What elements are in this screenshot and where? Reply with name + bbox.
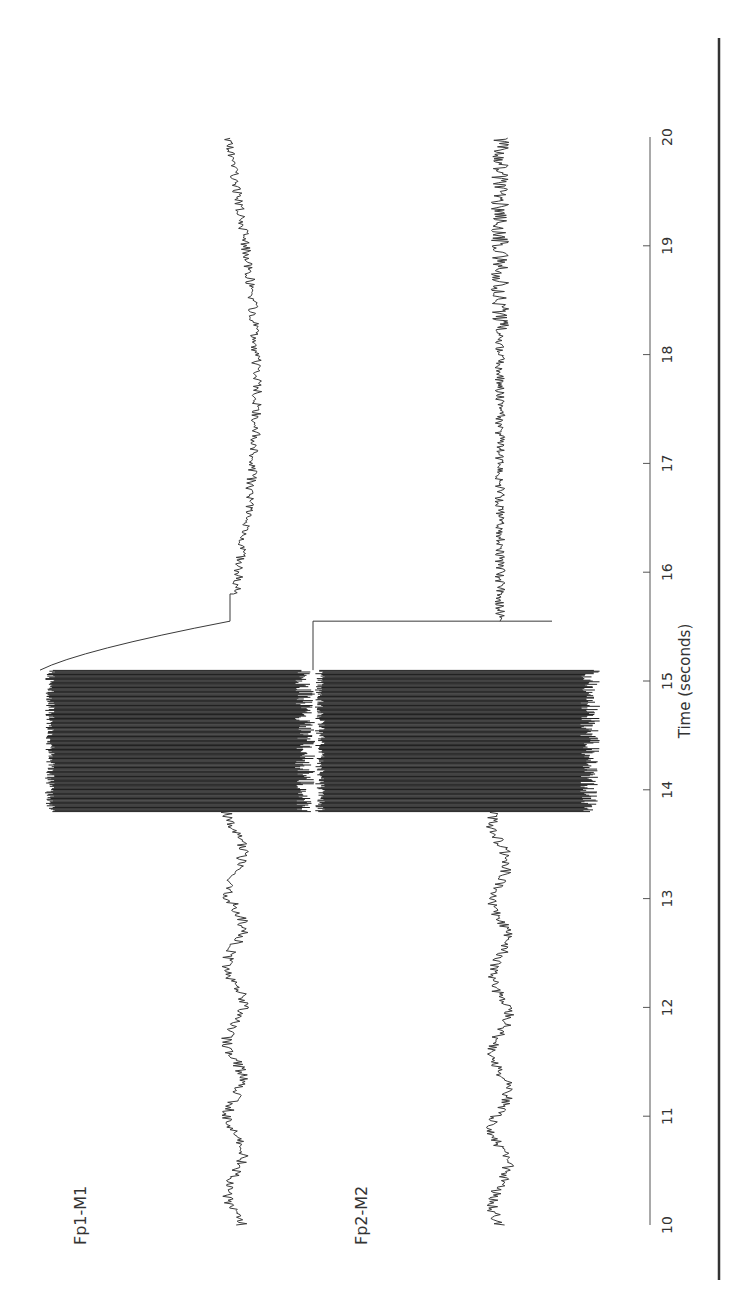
axis-label-time: Time (seconds)	[676, 624, 694, 740]
tick-label: 17	[659, 454, 675, 472]
trace-fp2-m2-recovery	[313, 138, 552, 670]
eeg-traces	[40, 138, 600, 1225]
tick-label: 14	[659, 781, 675, 799]
trace-fp2-m2-artifact	[315, 670, 600, 811]
tick-label: 19	[659, 237, 675, 255]
eeg-figure: 1011121314151617181920 Time (seconds) Fp…	[0, 0, 734, 1312]
tick-label: 11	[659, 1107, 675, 1125]
time-axis-ticks: 1011121314151617181920	[643, 128, 675, 1234]
tick-label: 13	[659, 890, 675, 908]
trace-fp1-m1-artifact	[45, 670, 315, 811]
trace-fp2-m2-baseline	[486, 812, 513, 1225]
channel-label-fp1-m1: Fp1-M1	[71, 1186, 90, 1245]
channel-label-fp2-m2: Fp2-M2	[352, 1186, 371, 1245]
tick-label: 18	[659, 346, 675, 364]
trace-fp1-m1-recovery	[40, 138, 262, 670]
tick-label: 16	[659, 563, 675, 581]
trace-fp1-m1-baseline	[221, 812, 248, 1225]
tick-label: 12	[659, 998, 675, 1016]
tick-label: 10	[659, 1216, 675, 1234]
tick-label: 15	[659, 672, 675, 690]
tick-label: 20	[659, 128, 675, 146]
